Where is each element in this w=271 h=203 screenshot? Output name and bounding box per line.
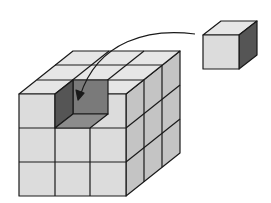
single-cube <box>203 21 257 69</box>
diagram-canvas <box>0 0 271 203</box>
missing-cube-slot <box>55 80 108 128</box>
cube-diagram <box>0 0 271 203</box>
